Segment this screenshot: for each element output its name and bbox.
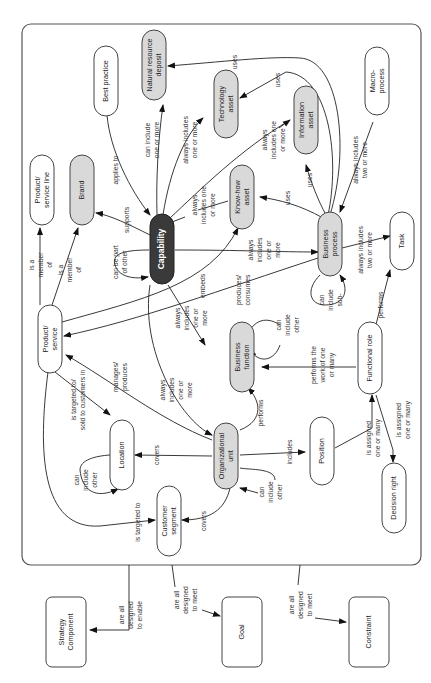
edge-ou-performs-bf	[240, 388, 258, 430]
edge-label: always	[174, 307, 182, 328]
edge-label: always	[159, 379, 167, 400]
edge-label: other	[276, 484, 283, 500]
edge-label: work of one	[319, 347, 326, 383]
edge-can-include-nrd	[157, 105, 163, 215]
edge-label: manages/	[112, 362, 120, 392]
node-product-service[interactable]: Product/ service	[38, 305, 62, 373]
node-label: Capability	[156, 228, 166, 269]
edge-label: is targeted to	[134, 502, 142, 542]
edge-label: sold to customers in	[79, 370, 86, 431]
node-label: process	[377, 68, 386, 94]
label-designed-meet-constraint: are all designed to meet	[288, 591, 313, 619]
edge-label: produces	[121, 362, 129, 391]
node-best-practice[interactable]: Best practice	[94, 46, 118, 116]
edge-label: always includes	[357, 226, 365, 274]
label-produces-consumes: produces/ consumes	[235, 274, 251, 306]
edge-label: of other	[121, 250, 128, 274]
label-uses-info: uses	[306, 172, 313, 187]
edge-label: one or more	[153, 121, 160, 158]
edge-label: is assigned	[395, 403, 403, 437]
node-decision-right[interactable]: Decision right	[382, 463, 406, 533]
node-organizational-unit[interactable]: Organizational unit	[214, 423, 238, 489]
node-label: Component	[66, 613, 75, 650]
edge-label: other	[293, 317, 300, 333]
label-supports: supports	[123, 206, 131, 233]
node-macro-process[interactable]: Macro- process	[365, 47, 389, 115]
node-label: Organizational	[217, 432, 226, 479]
edge-label: one or many	[374, 419, 382, 457]
edge-label: includes	[168, 377, 175, 403]
label-always-includes-tech: always includes one or more	[182, 116, 198, 164]
node-label: process	[330, 231, 339, 257]
edge-goal-seg	[172, 565, 175, 587]
edge-bp-uses-knowhow	[260, 197, 323, 218]
edge-label: is a	[28, 259, 35, 270]
node-label: Business	[233, 342, 242, 372]
edge-label: or more	[209, 193, 216, 217]
node-label: Position	[317, 438, 326, 464]
node-label: Goal	[237, 624, 246, 640]
edge-label: always	[261, 129, 269, 150]
label-performs-the-work: performs the work of one or many	[310, 346, 336, 384]
edge-label: can	[275, 319, 282, 330]
node-knowhow-asset[interactable]: Know-how asset	[230, 165, 254, 229]
edge-label: one or many	[404, 401, 412, 439]
node-goal[interactable]: Goal	[222, 597, 262, 667]
edge-label: one or	[192, 308, 199, 328]
label-always-includes-bp: always includes one or more	[247, 237, 281, 263]
label-targeted-to: is targeted to	[134, 502, 142, 542]
node-label: Macro-	[368, 69, 377, 92]
edge-always-includes-knowhow	[172, 217, 185, 222]
node-constraint[interactable]: Constraint	[349, 597, 389, 667]
edge-can-be-part-of-other	[114, 250, 149, 278]
arrow-info	[279, 120, 290, 128]
node-label: Know-how	[233, 179, 242, 213]
node-business-process[interactable]: Business process	[318, 212, 342, 276]
node-customer-segment[interactable]: Customer segment	[157, 486, 181, 556]
edge-label: includes	[183, 305, 190, 331]
edge-label: performs	[377, 291, 385, 318]
node-capability[interactable]: Capability	[150, 214, 174, 284]
edge-covers-location	[135, 455, 212, 456]
edge-label: can be part	[112, 245, 120, 279]
edge-label: can include	[144, 123, 151, 158]
edge-label: of	[75, 267, 82, 273]
label-can-be-part-of-other: can be part of other	[112, 245, 128, 279]
edge-label: to enable	[136, 601, 143, 629]
edge-label: other	[91, 472, 98, 488]
label-ou-can-include: can include other	[258, 481, 283, 503]
label-member-of-1: is a member of	[28, 252, 53, 278]
node-business-function[interactable]: Business function	[230, 322, 254, 392]
label-always-includes-knowhow: always includes one or more	[191, 186, 216, 224]
node-strategy-component[interactable]: Strategy Component	[46, 597, 86, 667]
node-label: Brand	[77, 180, 86, 199]
edge-includes-position	[240, 452, 305, 455]
node-information-asset[interactable]: Information asset	[294, 86, 318, 154]
edge-label: are all	[173, 590, 180, 609]
node-label: Business	[321, 229, 330, 259]
label-uses-nrd: uses	[231, 54, 238, 69]
node-task[interactable]: Task	[390, 212, 414, 270]
label-always-includes-bf: always includes one or more	[174, 305, 208, 331]
node-label: Natural resource	[145, 38, 154, 91]
node-technology-asset[interactable]: Technology asset	[214, 70, 238, 138]
edge-label: member	[66, 257, 73, 283]
edge-label: covers	[200, 510, 207, 531]
node-natural-resource-deposit[interactable]: Natural resource deposit	[142, 30, 166, 100]
edge-label: one or	[177, 380, 184, 400]
node-position[interactable]: Position	[310, 417, 334, 485]
node-functional-role[interactable]: Functional role	[358, 322, 382, 394]
edge-label: include	[327, 289, 334, 311]
edge-label: can	[73, 474, 80, 485]
node-location[interactable]: Location	[110, 420, 134, 490]
node-product-service-line[interactable]: Product/ service line	[30, 155, 54, 225]
label-assigned-fr: is assigned one or many	[365, 419, 382, 457]
edge-label: produces/	[235, 275, 243, 305]
edge-label: two or more	[361, 142, 368, 178]
edge-label: include	[82, 469, 89, 491]
edge-label: are all	[288, 595, 295, 614]
node-label: Product/	[41, 326, 50, 353]
node-brand[interactable]: Brand	[70, 155, 94, 225]
edge-label: more	[201, 310, 208, 326]
edge-label: uses	[231, 54, 238, 69]
